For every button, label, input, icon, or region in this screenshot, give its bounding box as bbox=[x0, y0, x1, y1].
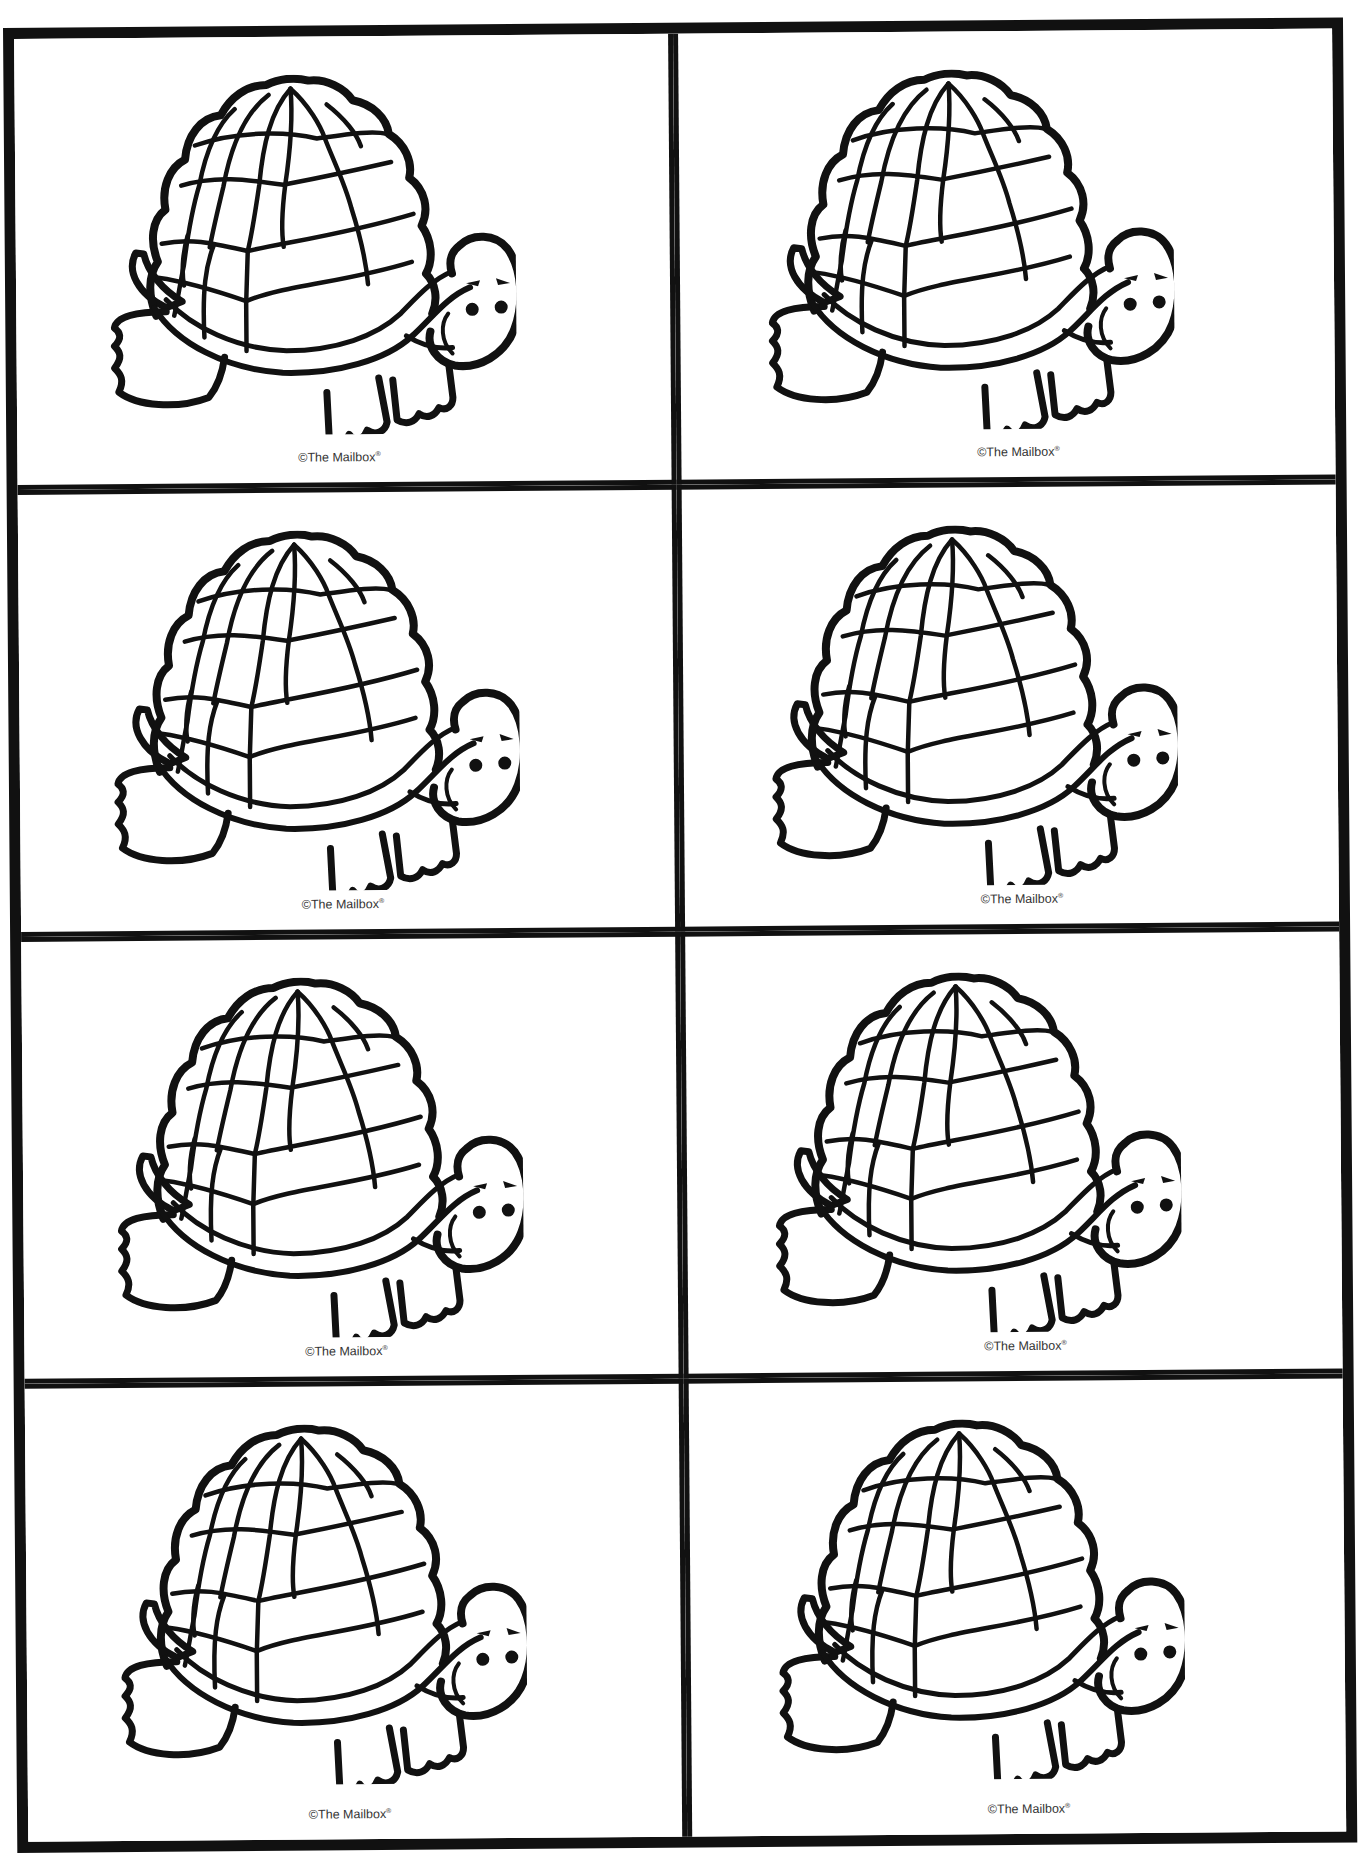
turtle-card-4: ©The Mailbox® bbox=[677, 480, 1339, 932]
turtle-card-5: ©The Mailbox® bbox=[21, 932, 683, 1384]
copyright-caption: ©The Mailbox® bbox=[28, 1805, 682, 1824]
turtle-card-6: ©The Mailbox® bbox=[680, 927, 1342, 1379]
turtle-icon bbox=[752, 68, 1175, 431]
turtle-icon bbox=[94, 73, 517, 436]
turtle-icon bbox=[759, 971, 1182, 1334]
copyright-caption: ©The Mailbox® bbox=[685, 890, 1339, 909]
copyright-caption: ©The Mailbox® bbox=[692, 1800, 1346, 1819]
turtle-icon bbox=[105, 1423, 528, 1786]
turtle-card-7: ©The Mailbox® bbox=[25, 1379, 688, 1842]
copyright-caption: ©The Mailbox® bbox=[24, 1342, 678, 1361]
cutout-sheet: ©The Mailbox® ©The Mailbox® ©The Mailbox… bbox=[3, 17, 1357, 1852]
copyright-caption: ©The Mailbox® bbox=[681, 443, 1335, 462]
copyright-caption: ©The Mailbox® bbox=[688, 1337, 1342, 1356]
turtle-icon bbox=[101, 976, 524, 1339]
copyright-caption: ©The Mailbox® bbox=[17, 448, 671, 467]
turtle-icon bbox=[756, 524, 1179, 887]
turtle-icon bbox=[763, 1418, 1186, 1781]
copyright-caption: ©The Mailbox® bbox=[21, 895, 675, 914]
turtle-icon bbox=[98, 529, 521, 892]
turtle-card-2: ©The Mailbox® bbox=[673, 29, 1336, 485]
turtle-card-1: ©The Mailbox® bbox=[14, 34, 677, 490]
turtle-card-3: ©The Mailbox® bbox=[18, 485, 680, 937]
turtle-card-8: ©The Mailbox® bbox=[684, 1374, 1347, 1837]
